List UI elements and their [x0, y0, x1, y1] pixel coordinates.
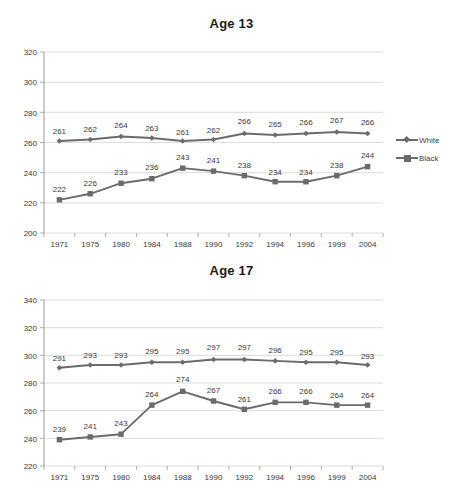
x-axis-tick-label: 1996: [297, 240, 315, 249]
data-label: 295: [330, 348, 344, 357]
plot-area-age-13: 2002202402602803003201971197519801984198…: [0, 38, 463, 264]
x-axis-tick-label: 1999: [328, 473, 346, 482]
data-point-marker-diamond[interactable]: [87, 362, 93, 368]
data-point-marker-square[interactable]: [272, 179, 277, 184]
data-label: 274: [176, 375, 190, 384]
data-point-marker-square[interactable]: [57, 197, 62, 202]
chart-title-age-13: Age 13: [0, 16, 463, 31]
data-label: 263: [145, 124, 159, 133]
y-axis-tick-label: 260: [24, 139, 38, 148]
x-axis-tick-label: 1992: [235, 473, 253, 482]
y-axis-tick-label: 280: [24, 379, 38, 388]
data-label: 222: [53, 185, 67, 194]
x-axis-tick-label: 1994: [266, 240, 284, 249]
data-point-marker-diamond[interactable]: [303, 359, 309, 365]
line-chart-svg-age-13: 2002202402602803003201971197519801984198…: [0, 38, 463, 264]
data-label: 238: [330, 161, 344, 170]
y-axis-tick-label: 220: [24, 462, 38, 471]
data-point-marker-diamond[interactable]: [57, 365, 63, 371]
data-label: 262: [207, 126, 221, 135]
legend-swatch-black-square-icon: [396, 153, 418, 163]
data-point-marker-square[interactable]: [242, 173, 247, 178]
x-axis-tick-label: 1994: [266, 473, 284, 482]
data-label: 264: [114, 121, 128, 130]
data-label: 297: [207, 343, 221, 352]
data-point-marker-square[interactable]: [334, 173, 339, 178]
data-point-marker-diamond[interactable]: [242, 131, 248, 137]
y-axis-tick-label: 280: [24, 109, 38, 118]
data-point-marker-diamond[interactable]: [334, 359, 340, 365]
data-point-marker-square[interactable]: [211, 168, 216, 173]
data-label: 234: [268, 168, 282, 177]
data-point-marker-diamond[interactable]: [180, 359, 186, 365]
x-axis-tick-label: 1980: [112, 473, 130, 482]
y-axis-tick-label: 300: [24, 78, 38, 87]
data-point-marker-diamond[interactable]: [272, 132, 278, 138]
data-point-marker-square[interactable]: [303, 400, 308, 405]
data-point-marker-diamond[interactable]: [180, 138, 186, 144]
data-point-marker-square[interactable]: [180, 389, 185, 394]
data-label: 234: [299, 168, 313, 177]
data-point-marker-square[interactable]: [303, 179, 308, 184]
data-label: 265: [268, 120, 282, 129]
data-point-marker-diamond[interactable]: [272, 358, 278, 364]
data-point-marker-diamond[interactable]: [118, 362, 124, 368]
data-point-marker-square[interactable]: [118, 431, 123, 436]
legend-swatch-white-diamond-icon: [396, 135, 418, 145]
data-point-marker-diamond[interactable]: [118, 134, 124, 140]
data-point-marker-square[interactable]: [149, 176, 154, 181]
data-label: 243: [114, 419, 128, 428]
data-point-marker-square[interactable]: [242, 407, 247, 412]
x-axis-tick-label: 1971: [51, 240, 69, 249]
x-axis-tick-label: 2004: [359, 240, 377, 249]
data-label: 262: [84, 125, 98, 134]
data-point-marker-square[interactable]: [334, 402, 339, 407]
x-axis-tick-label: 1990: [205, 240, 223, 249]
data-point-marker-square[interactable]: [211, 398, 216, 403]
data-point-marker-diamond[interactable]: [211, 357, 217, 363]
x-axis-tick-label: 1996: [297, 473, 315, 482]
data-label: 297: [238, 343, 252, 352]
data-point-marker-square[interactable]: [180, 165, 185, 170]
data-point-marker-diamond[interactable]: [365, 362, 371, 368]
legend-item-white[interactable]: White: [396, 131, 463, 149]
x-axis-tick-label: 1980: [112, 240, 130, 249]
data-point-marker-square[interactable]: [88, 191, 93, 196]
data-label: 236: [145, 163, 159, 172]
data-point-marker-diamond[interactable]: [211, 137, 217, 143]
data-label: 293: [84, 351, 98, 360]
plot-area-age-17: 2202402602803003203401971197519801984198…: [0, 286, 463, 494]
data-point-marker-square[interactable]: [365, 164, 370, 169]
data-point-marker-square[interactable]: [149, 402, 154, 407]
data-point-marker-diamond[interactable]: [149, 359, 155, 365]
data-point-marker-diamond[interactable]: [149, 135, 155, 141]
data-point-marker-diamond[interactable]: [334, 129, 340, 135]
chart-age-13: Age 13 200220240260280300320197119751980…: [0, 0, 463, 265]
data-label: 293: [114, 351, 128, 360]
data-point-marker-square[interactable]: [272, 400, 277, 405]
data-label: 266: [299, 118, 313, 127]
data-point-marker-square[interactable]: [365, 402, 370, 407]
data-point-marker-square[interactable]: [88, 434, 93, 439]
data-label: 295: [176, 347, 190, 356]
legend-label-white: White: [419, 136, 439, 145]
data-label: 295: [145, 347, 159, 356]
line-chart-svg-age-17: 2202402602803003203401971197519801984198…: [0, 286, 463, 494]
y-axis-tick-label: 340: [24, 296, 38, 305]
x-axis-tick-label: 1984: [143, 240, 161, 249]
data-point-marker-diamond[interactable]: [303, 131, 309, 137]
data-label: 226: [84, 179, 98, 188]
legend-item-black[interactable]: Black: [396, 149, 463, 167]
y-axis-tick-label: 240: [24, 169, 38, 178]
y-axis-tick-label: 260: [24, 407, 38, 416]
data-label: 267: [330, 116, 344, 125]
data-point-marker-diamond[interactable]: [57, 138, 63, 144]
data-point-marker-square[interactable]: [57, 437, 62, 442]
data-point-marker-diamond[interactable]: [365, 131, 371, 137]
data-label: 239: [53, 425, 67, 434]
data-label: 261: [238, 395, 252, 404]
data-point-marker-square[interactable]: [118, 181, 123, 186]
data-point-marker-diamond[interactable]: [87, 137, 93, 143]
data-label: 266: [299, 387, 313, 396]
data-point-marker-diamond[interactable]: [242, 357, 248, 363]
